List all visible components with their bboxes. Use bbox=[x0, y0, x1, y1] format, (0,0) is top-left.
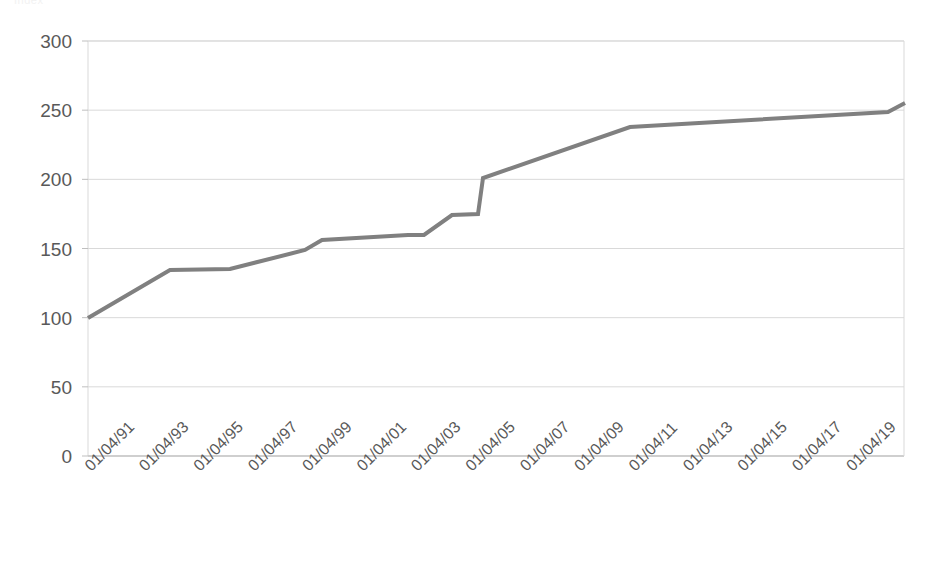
y-tick-marks-group bbox=[82, 41, 88, 456]
x-tick-label: 01/04/05 bbox=[462, 418, 518, 474]
x-tick-label: 01/04/13 bbox=[680, 418, 736, 474]
x-tick-label: 01/04/19 bbox=[843, 418, 899, 474]
x-tick-label: 01/04/93 bbox=[136, 418, 192, 474]
x-tick-label: 01/04/09 bbox=[571, 418, 627, 474]
x-tick-label: 01/04/07 bbox=[517, 418, 573, 474]
y-tick-labels-group: 050100150200250300 bbox=[40, 31, 72, 467]
y-tick-label: 100 bbox=[40, 308, 72, 329]
y-tick-label: 50 bbox=[51, 377, 72, 398]
gridlines-group bbox=[88, 41, 904, 456]
x-tick-label: 01/04/99 bbox=[299, 418, 355, 474]
x-tick-label: 01/04/95 bbox=[190, 418, 246, 474]
x-tick-label: 01/04/11 bbox=[625, 419, 680, 474]
y-tick-label: 200 bbox=[40, 169, 72, 190]
line-chart-figure: Index 050100150200250300 01/04/9101/04/9… bbox=[0, 0, 933, 570]
x-tick-labels-group: 01/04/9101/04/9301/04/9501/04/9701/04/99… bbox=[81, 418, 899, 474]
x-tick-label: 01/04/15 bbox=[734, 418, 790, 474]
x-tick-label: 01/04/17 bbox=[789, 418, 845, 474]
x-tick-label: 01/04/91 bbox=[81, 418, 137, 474]
x-tick-label: 01/04/97 bbox=[245, 418, 301, 474]
y-tick-label: 150 bbox=[40, 239, 72, 260]
data-series-group bbox=[88, 103, 905, 318]
x-tick-label: 01/04/01 bbox=[353, 418, 409, 474]
y-tick-label: 0 bbox=[61, 446, 72, 467]
y-tick-label: 300 bbox=[40, 31, 72, 52]
y-tick-label: 250 bbox=[40, 100, 72, 121]
x-tick-label: 01/04/03 bbox=[408, 418, 464, 474]
chart-canvas: 050100150200250300 01/04/9101/04/9301/04… bbox=[0, 0, 933, 570]
series-line-index bbox=[88, 103, 905, 318]
